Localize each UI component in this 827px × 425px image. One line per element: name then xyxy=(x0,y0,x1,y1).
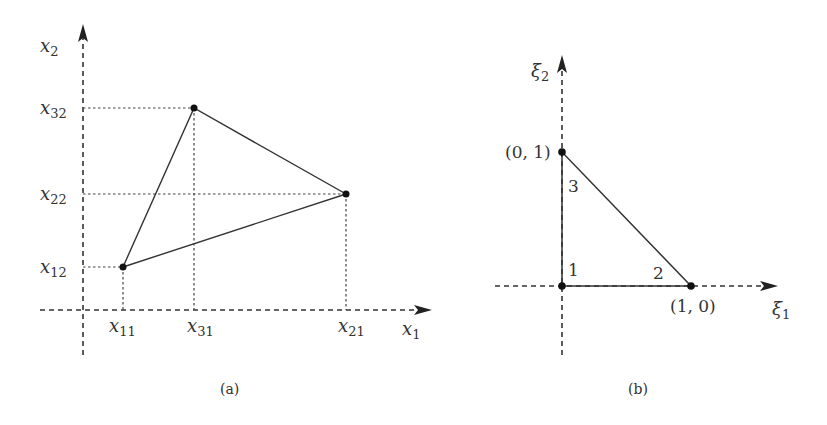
xi1-axis-label: ξ1 xyxy=(772,298,790,322)
tick-x11: x11 xyxy=(109,315,136,339)
triangle-element xyxy=(123,108,346,267)
xi1-axis-arrow-icon xyxy=(760,281,778,291)
vertex-3-dot xyxy=(191,105,198,112)
tick-x12: x12 xyxy=(40,256,67,280)
reference-triangle xyxy=(562,152,691,286)
x1-axis-label: x1 xyxy=(402,318,420,342)
tick-x21: x21 xyxy=(338,315,365,339)
node-label-3: 3 xyxy=(568,176,579,196)
x2-axis-label: x2 xyxy=(40,35,58,59)
figure-a: x2 x1 x32 x22 x12 x11 x31 x21 (a) xyxy=(40,24,432,397)
xi2-axis-arrow-icon xyxy=(557,55,567,73)
caption-a: (a) xyxy=(220,381,239,397)
caption-b: (b) xyxy=(628,381,648,397)
xi2-axis-label: ξ2 xyxy=(531,60,549,84)
node-label-2: 2 xyxy=(653,263,664,283)
node-3-dot xyxy=(558,148,566,156)
tick-x22: x22 xyxy=(40,183,67,207)
vertex-2-dot xyxy=(343,191,350,198)
point-label-0-1: (0, 1) xyxy=(505,142,551,162)
node-2-dot xyxy=(687,282,695,290)
tick-x32: x32 xyxy=(40,97,67,121)
point-label-1-0: (1, 0) xyxy=(670,296,716,316)
x1-axis-arrow-icon xyxy=(414,305,432,315)
node-1-dot xyxy=(558,282,566,290)
vertex-1-dot xyxy=(120,264,127,271)
figure-b: ξ2 ξ1 (0, 1) (1, 0) 1 2 3 (b) xyxy=(495,55,790,397)
node-label-1: 1 xyxy=(568,260,579,280)
projection-lines xyxy=(83,108,346,310)
tick-x31: x31 xyxy=(187,315,214,339)
